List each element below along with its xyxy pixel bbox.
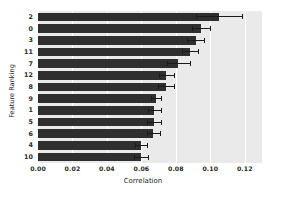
y-axis-tick-label: 3	[0, 36, 33, 44]
error-bar-cap	[160, 131, 161, 136]
bar-row	[38, 106, 262, 115]
error-bar-cap	[161, 96, 162, 101]
x-axis-tick-label: 0.12	[237, 165, 253, 172]
bar-row	[38, 48, 262, 57]
bar	[38, 118, 154, 127]
error-bar	[147, 122, 161, 123]
error-bar-cap	[174, 73, 175, 78]
y-axis-tick-label: 12	[0, 71, 33, 79]
bar-row	[38, 94, 262, 103]
plot-area	[38, 11, 262, 163]
bar	[38, 129, 153, 138]
y-axis-tick-label: 11	[0, 48, 33, 56]
chart-figure: Correlation Feature Ranking 203117128915…	[0, 0, 286, 198]
error-bar-cap	[147, 131, 148, 136]
bar	[38, 94, 156, 103]
bar	[38, 48, 190, 57]
error-bar-cap	[198, 49, 199, 54]
y-axis-tick-label: 10	[0, 153, 33, 161]
bar-row	[38, 71, 262, 80]
error-bar-cap	[174, 84, 175, 89]
y-axis-tick-label: 2	[0, 13, 33, 21]
y-axis-tick-label: 7	[0, 60, 33, 68]
error-bar-cap	[148, 108, 149, 113]
x-axis-tick-label: 0.06	[134, 165, 150, 172]
error-bar-cap	[187, 38, 188, 43]
bar-row	[38, 36, 262, 45]
error-bar-cap	[196, 14, 197, 19]
bar	[38, 59, 178, 68]
error-bar-cap	[159, 73, 160, 78]
bar	[38, 71, 166, 80]
bar-row	[38, 129, 262, 138]
x-axis-tick-label: 0.00	[30, 165, 46, 172]
error-bar	[148, 110, 161, 111]
error-bar-cap	[147, 143, 148, 148]
y-axis-tick-label: 1	[0, 106, 33, 114]
error-bar	[167, 63, 190, 64]
error-bar-cap	[242, 14, 243, 19]
bar	[38, 83, 166, 92]
bar	[38, 24, 201, 33]
error-bar-cap	[192, 26, 193, 31]
x-axis-tick-label: 0.10	[202, 165, 218, 172]
error-bar	[151, 98, 161, 99]
error-bar	[158, 86, 174, 87]
bar-row	[38, 83, 262, 92]
bar-row	[38, 13, 262, 22]
error-bar-cap	[161, 108, 162, 113]
bar	[38, 141, 141, 150]
error-bar	[192, 28, 210, 29]
error-bar	[159, 75, 175, 76]
x-axis-tick-label: 0.08	[168, 165, 184, 172]
error-bar	[187, 40, 204, 41]
error-bar	[134, 157, 147, 158]
x-axis-tick-label: 0.04	[99, 165, 115, 172]
x-axis-label: Correlation	[0, 177, 286, 185]
y-axis-tick-label: 5	[0, 118, 33, 126]
error-bar-cap	[158, 84, 159, 89]
error-bar-cap	[210, 26, 211, 31]
y-axis-tick-label: 8	[0, 83, 33, 91]
x-axis-tick-label: 0.02	[65, 165, 81, 172]
bar-row	[38, 153, 262, 162]
error-bar-cap	[161, 120, 162, 125]
y-axis-tick-label: 4	[0, 141, 33, 149]
bar-row	[38, 118, 262, 127]
error-bar	[182, 51, 198, 52]
bar	[38, 13, 219, 22]
error-bar-cap	[204, 38, 205, 43]
error-bar-cap	[190, 61, 191, 66]
y-axis-tick-label: 0	[0, 25, 33, 33]
bar	[38, 106, 154, 115]
bar-row	[38, 141, 262, 150]
error-bar-cap	[182, 49, 183, 54]
bar-row	[38, 24, 262, 33]
bar	[38, 36, 196, 45]
bar	[38, 153, 141, 162]
y-axis-tick-label: 9	[0, 95, 33, 103]
error-bar-cap	[134, 155, 135, 160]
error-bar	[196, 16, 243, 17]
error-bar	[135, 145, 147, 146]
error-bar-cap	[148, 155, 149, 160]
error-bar	[147, 133, 160, 134]
error-bar-cap	[135, 143, 136, 148]
error-bar-cap	[167, 61, 168, 66]
bar-row	[38, 59, 262, 68]
error-bar-cap	[147, 120, 148, 125]
y-axis-tick-label: 6	[0, 130, 33, 138]
error-bar-cap	[151, 96, 152, 101]
